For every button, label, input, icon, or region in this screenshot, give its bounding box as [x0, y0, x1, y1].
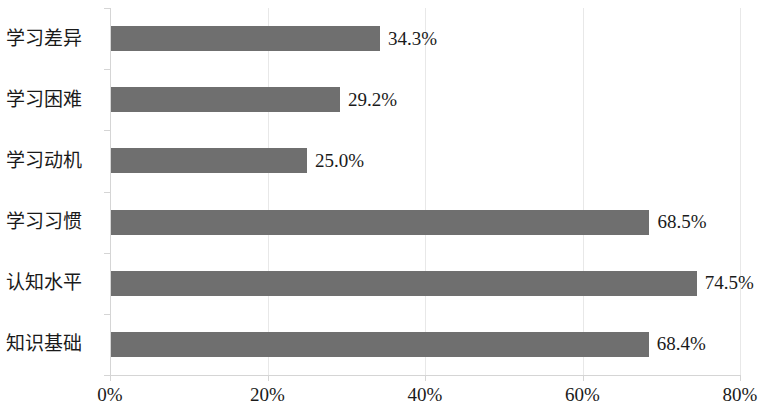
- plot-area: [110, 8, 740, 375]
- gridline-80: [740, 8, 741, 375]
- category-label: 知识基础: [0, 333, 96, 355]
- x-axis-tick-label: 20%: [250, 383, 285, 407]
- x-axis-tick: [268, 375, 269, 381]
- x-axis-tick-label: 0%: [97, 383, 122, 407]
- x-axis-tick-label: 40%: [408, 383, 443, 407]
- bar-value-label: 29.2%: [348, 87, 397, 112]
- y-axis-tick: [104, 130, 110, 131]
- x-axis-tick: [583, 375, 584, 381]
- category-label: 学习动机: [0, 150, 96, 172]
- y-axis-tick: [104, 253, 110, 254]
- y-axis-tick: [104, 314, 110, 315]
- bar: [110, 87, 340, 112]
- x-axis-tick: [740, 375, 741, 381]
- bar-chart: 0%20%40%60%80% 学习差异学习困难学习动机学习习惯认知水平知识基础 …: [0, 0, 775, 407]
- bar: [110, 148, 307, 173]
- y-axis-tick: [104, 8, 110, 9]
- y-axis-tick: [104, 192, 110, 193]
- bar-value-label: 74.5%: [705, 270, 754, 295]
- bar-value-label: 34.3%: [388, 26, 437, 51]
- bar: [110, 26, 380, 51]
- category-label: 认知水平: [0, 272, 96, 294]
- bar: [110, 210, 649, 235]
- category-label: 学习习惯: [0, 211, 96, 233]
- x-axis-tick: [425, 375, 426, 381]
- x-axis-tick-label: 80%: [723, 383, 758, 407]
- gridline-20: [268, 8, 269, 375]
- y-axis-line: [110, 8, 111, 375]
- bar: [110, 332, 649, 357]
- category-label: 学习差异: [0, 28, 96, 50]
- bar-value-label: 68.5%: [657, 209, 706, 234]
- x-axis-tick: [110, 375, 111, 381]
- bar-value-label: 68.4%: [657, 331, 706, 356]
- y-axis-tick: [104, 69, 110, 70]
- gridline-40: [425, 8, 426, 375]
- bar-value-label: 25.0%: [315, 148, 364, 173]
- bar: [110, 271, 697, 296]
- category-label: 学习困难: [0, 89, 96, 111]
- gridline-60: [583, 8, 584, 375]
- x-axis-tick-label: 60%: [565, 383, 600, 407]
